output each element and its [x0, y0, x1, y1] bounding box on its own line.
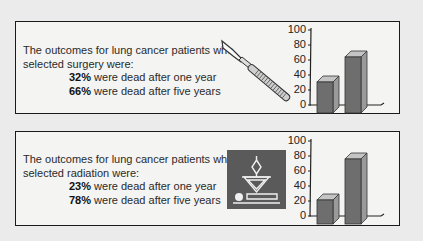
- bar-one-year: [317, 76, 339, 113]
- surgery-chart-graphics: [278, 22, 398, 115]
- intro-line-2: selected surgery were:: [23, 58, 233, 72]
- stat-text: were dead after one year: [91, 180, 216, 192]
- stat-value: 23%: [69, 180, 91, 192]
- intro-line-2: selected radiation were:: [23, 167, 233, 181]
- stat-one-year: 32% were dead after one year: [23, 71, 233, 85]
- intro-line-1: The outcomes for lung cancer patients wh…: [23, 153, 233, 167]
- radiation-description: The outcomes for lung cancer patients wh…: [23, 153, 233, 207]
- stat-value: 32%: [69, 71, 91, 83]
- stat-value: 78%: [69, 194, 91, 206]
- radiation-panel: The outcomes for lung cancer patients wh…: [15, 131, 400, 226]
- radiation-bar-chart: 100 80 60 40 20 0: [278, 132, 398, 225]
- bar-one-year: [317, 194, 339, 224]
- bar-five-years: [345, 153, 367, 224]
- stat-value: 66%: [69, 85, 91, 97]
- stat-text: were dead after five years: [91, 85, 221, 97]
- surgery-bar-chart: 100 80 60 40 20 0: [278, 22, 398, 113]
- stat-one-year: 23% were dead after one year: [23, 180, 233, 194]
- surgery-panel: The outcomes for lung cancer patients wh…: [15, 21, 400, 114]
- surgery-description: The outcomes for lung cancer patients wh…: [23, 44, 233, 98]
- stat-five-years: 66% were dead after five years: [23, 85, 233, 99]
- stat-text: were dead after five years: [91, 194, 221, 206]
- bar-five-years: [345, 51, 367, 113]
- radiation-chart-graphics: [278, 132, 398, 227]
- intro-line-1: The outcomes for lung cancer patients wh…: [23, 44, 233, 58]
- stat-five-years: 78% were dead after five years: [23, 194, 233, 208]
- stat-text: were dead after one year: [91, 71, 216, 83]
